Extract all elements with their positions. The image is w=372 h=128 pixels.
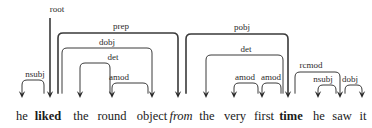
word-it-12: it [360, 110, 367, 123]
word-he-0: he [16, 110, 28, 123]
word-from-5: from [169, 110, 192, 123]
word-saw-11: saw [332, 110, 351, 123]
word-the-2: the [73, 110, 88, 123]
word-first-8: first [254, 110, 274, 123]
word-very-7: very [224, 110, 246, 123]
word-he-10: he [313, 110, 325, 123]
word-liked-1: liked [35, 110, 61, 123]
word-the-6: the [199, 110, 214, 123]
word-time-9: time [279, 110, 303, 123]
word-object-4: object [137, 110, 168, 123]
word-round-3: round [97, 110, 126, 123]
dependency-parse-figure: rootnsubjprepdobjdetamodpobjdetamodamodr… [0, 0, 372, 128]
sentence-word-layer: helikedtheroundobjectfromtheveryfirsttim… [0, 0, 372, 128]
